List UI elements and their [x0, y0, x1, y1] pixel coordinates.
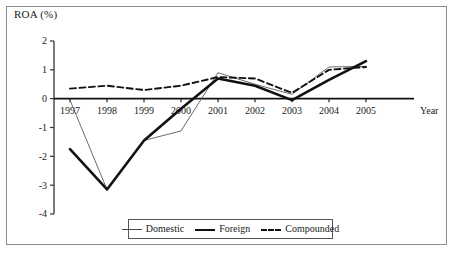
- x-tick-label: 2002: [245, 105, 265, 116]
- chart-figure: ROA (%) 210-1-2-3-4199719981999200020012…: [0, 0, 455, 256]
- plot-area: 210-1-2-3-419971998199920002001200220032…: [0, 0, 455, 256]
- legend-item-compounded[interactable]: Compounded: [261, 224, 339, 234]
- y-tick-label: -2: [39, 151, 47, 162]
- x-tick-label: 2005: [356, 105, 376, 116]
- legend-line-compounded-icon: [261, 226, 281, 232]
- x-tick-label: 1999: [134, 105, 154, 116]
- x-tick-label: 1997: [60, 105, 80, 116]
- legend-line-domestic-icon: [122, 226, 142, 232]
- y-tick-label: 0: [42, 93, 47, 104]
- legend-item-foreign[interactable]: Foreign: [195, 224, 250, 234]
- chart-legend: Domestic Foreign Compounded: [128, 219, 333, 239]
- y-tick-label: -4: [39, 208, 47, 219]
- legend-label-foreign: Foreign: [219, 224, 250, 234]
- legend-item-domestic[interactable]: Domestic: [122, 224, 184, 234]
- y-tick-label: -1: [39, 122, 47, 133]
- x-tick-label: 2004: [319, 105, 339, 116]
- y-tick-label: 2: [42, 35, 47, 46]
- legend-label-compounded: Compounded: [285, 224, 339, 234]
- x-tick-label: 2003: [282, 105, 302, 116]
- x-tick-label: 1998: [97, 105, 117, 116]
- legend-label-domestic: Domestic: [146, 224, 184, 234]
- x-axis-title: Year: [420, 105, 439, 116]
- y-tick-label: 1: [42, 64, 47, 75]
- series-line-foreign: [70, 61, 366, 189]
- x-tick-label: 2001: [208, 105, 228, 116]
- legend-line-foreign-icon: [195, 226, 215, 232]
- y-tick-label: -3: [39, 180, 47, 191]
